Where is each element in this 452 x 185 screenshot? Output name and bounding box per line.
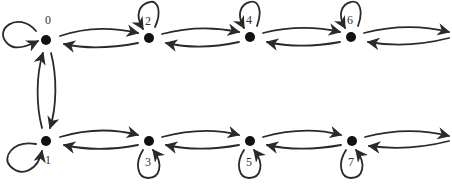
node-labels: 0 2 4 6 1 3 5 7	[45, 13, 354, 169]
edge-6-out	[364, 27, 449, 33]
label-node-5: 5	[246, 155, 252, 169]
node-6	[346, 32, 356, 42]
nodes	[41, 32, 357, 146]
label-node-4: 4	[246, 13, 252, 27]
edge-1-3	[60, 130, 138, 137]
node-0	[41, 35, 51, 45]
edge-4-2	[166, 42, 239, 47]
edge-2-0	[64, 43, 138, 47]
edge-out-6	[368, 38, 449, 45]
edge-4-6	[263, 28, 340, 33]
node-4	[245, 32, 255, 42]
node-2	[144, 33, 154, 43]
self-loop-0	[3, 22, 38, 48]
node-7	[347, 136, 357, 146]
state-diagram: 0 2 4 6 1 3 5 7	[0, 0, 452, 185]
label-node-0: 0	[45, 13, 51, 27]
vertical-edges	[38, 53, 56, 128]
label-node-7: 7	[348, 155, 354, 169]
label-node-2: 2	[145, 14, 151, 28]
edge-1-0	[38, 53, 43, 128]
label-node-6: 6	[347, 13, 353, 27]
label-node-1: 1	[45, 153, 51, 167]
edge-0-2	[60, 29, 138, 36]
edge-6-4	[267, 42, 340, 46]
label-node-3: 3	[145, 155, 151, 169]
node-3	[144, 136, 154, 146]
edge-7-5	[267, 145, 341, 149]
edge-7-out	[365, 131, 449, 137]
edge-3-5	[162, 131, 239, 137]
edge-3-1	[64, 145, 138, 149]
edge-5-3	[166, 145, 239, 149]
node-5	[245, 136, 255, 146]
node-1	[41, 136, 51, 146]
edge-0-1	[50, 53, 55, 128]
edge-out-7	[369, 141, 449, 148]
edge-2-4	[162, 28, 239, 34]
self-loop-1	[7, 143, 42, 171]
edge-5-7	[263, 131, 341, 137]
